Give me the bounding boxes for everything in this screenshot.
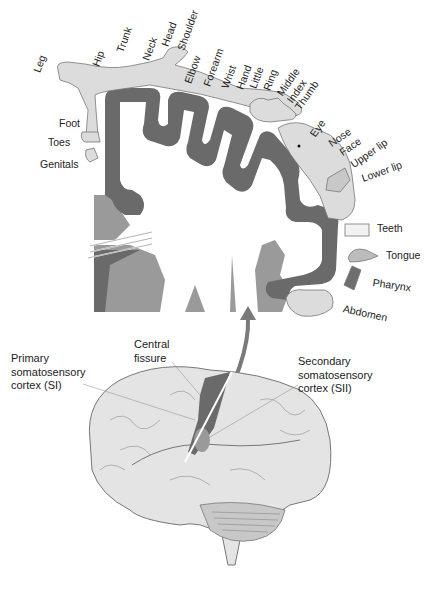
label-teeth: Teeth [377, 222, 403, 234]
cortex-cross-section [88, 88, 345, 312]
label-secondary-somatosensory-cortex: Secondary somatosensory cortex (SII) [298, 355, 373, 396]
label-central-fissure: Central fissure [134, 338, 169, 365]
label-toes: Toes [48, 136, 70, 148]
label-tongue: Tongue [386, 249, 420, 261]
label-foot: Foot [59, 117, 80, 129]
diagram-canvas [0, 0, 425, 589]
brain [83, 362, 331, 565]
label-genitals: Genitals [40, 158, 79, 170]
label-primary-somatosensory-cortex: Primary somatosensory cortex (SI) [11, 352, 86, 393]
